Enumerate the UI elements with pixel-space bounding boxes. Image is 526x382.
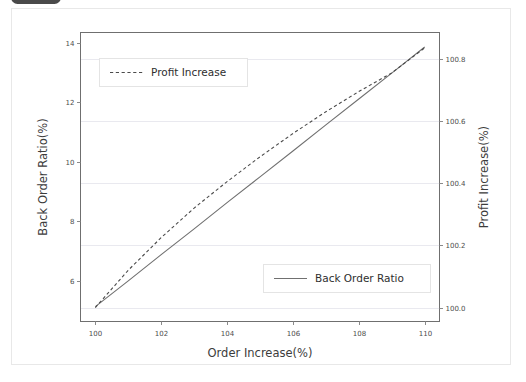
x-tick-label: 106: [287, 330, 301, 338]
x-tick-label: 110: [419, 330, 432, 338]
legend-profit-increase[interactable]: Profit Increase: [100, 59, 248, 87]
y2-tick-label: 100.0: [446, 305, 466, 313]
x-axis-title: Order Increase(%): [208, 346, 313, 360]
y-axis-ticks: 68101214: [66, 40, 81, 286]
x-tick-label: 100: [89, 330, 102, 338]
y-tick-label: 6: [70, 278, 75, 286]
y2-axis-title: Profit Increase(%): [477, 126, 491, 228]
y-axis-title: Back Order Ratio(%): [36, 118, 50, 235]
y-tick-label: 8: [70, 218, 74, 226]
x-tick-label: 102: [155, 330, 168, 338]
chart-figure: 100102104106108110 68101214 100.0100.210…: [0, 0, 526, 382]
x-tick-label: 104: [221, 330, 235, 338]
y-tick-label: 14: [66, 40, 75, 48]
y2-tick-label: 100.2: [446, 242, 466, 250]
y2-tick-label: 100.6: [446, 118, 467, 126]
y-tick-label: 10: [66, 159, 75, 167]
y2-axis-ticks: 100.0100.2100.4100.6100.8: [440, 56, 467, 313]
legend-label-back-order-ratio: Back Order Ratio: [315, 272, 404, 284]
legend-label-profit-increase: Profit Increase: [151, 66, 226, 78]
x-axis-ticks: 100102104106108110: [89, 322, 432, 338]
x-tick-label: 108: [353, 330, 366, 338]
y-tick-label: 12: [66, 99, 75, 107]
y2-tick-label: 100.8: [446, 56, 466, 64]
chart-svg: 100102104106108110 68101214 100.0100.210…: [0, 0, 526, 382]
y2-tick-label: 100.4: [446, 180, 467, 188]
legend-back-order-ratio[interactable]: Back Order Ratio: [264, 265, 431, 293]
